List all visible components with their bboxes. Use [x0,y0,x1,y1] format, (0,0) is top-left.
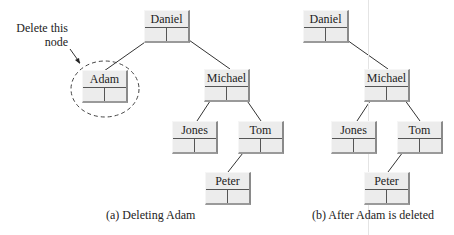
right-pointer-cell [227,87,249,100]
right-pointer-cell [326,28,348,41]
annotation-line-1: Delete this [14,21,68,35]
left-pointer-cell [365,190,387,203]
right-pointer-cell [167,28,189,41]
node-label: Daniel [145,12,188,27]
node-label: Tom [398,123,441,138]
node-label: Michael [365,71,408,86]
tree-node-b-peter: Peter [364,172,410,205]
diagram-canvas: Delete this node Daniel Adam Michael Jon… [0,0,454,235]
tree-node-adam: Adam [82,70,128,103]
tree-node-b-jones: Jones [331,121,377,154]
right-pointer-cell [354,139,376,152]
caption-panel-b: (b) After Adam is deleted [312,208,434,223]
left-pointer-cell [332,139,354,152]
right-pointer-cell [105,88,127,101]
tree-node-peter: Peter [205,172,251,205]
node-label: Peter [365,174,408,189]
tree-node-jones: Jones [172,121,218,154]
node-label: Jones [173,123,216,138]
tree-node-tom: Tom [238,121,284,154]
node-label: Tom [239,123,282,138]
left-pointer-cell [398,139,420,152]
right-pointer-cell [228,190,250,203]
node-label: Adam [83,72,126,87]
annotation-arrowhead [75,58,80,64]
left-pointer-cell [145,28,167,41]
right-pointer-cell [195,139,217,152]
right-pointer-cell [420,139,442,152]
node-label: Michael [205,71,248,86]
delete-annotation: Delete this node [14,21,68,49]
node-label: Jones [332,123,375,138]
left-pointer-cell [83,88,105,101]
tree-node-b-tom: Tom [397,121,443,154]
left-pointer-cell [206,190,228,203]
left-pointer-cell [365,87,387,100]
right-pointer-cell [387,190,409,203]
right-pointer-cell [387,87,409,100]
tree-node-daniel: Daniel [144,10,190,43]
left-pointer-cell [173,139,195,152]
left-pointer-cell [304,28,326,41]
left-pointer-cell [205,87,227,100]
tree-node-b-michael: Michael [364,69,410,102]
right-pointer-cell [261,139,283,152]
tree-node-michael: Michael [204,69,250,102]
tree-node-b-daniel: Daniel [303,10,349,43]
node-label: Daniel [304,12,347,27]
caption-panel-a: (a) Deleting Adam [106,208,195,223]
annotation-line-2: node [14,35,68,49]
left-pointer-cell [239,139,261,152]
node-label: Peter [206,174,249,189]
